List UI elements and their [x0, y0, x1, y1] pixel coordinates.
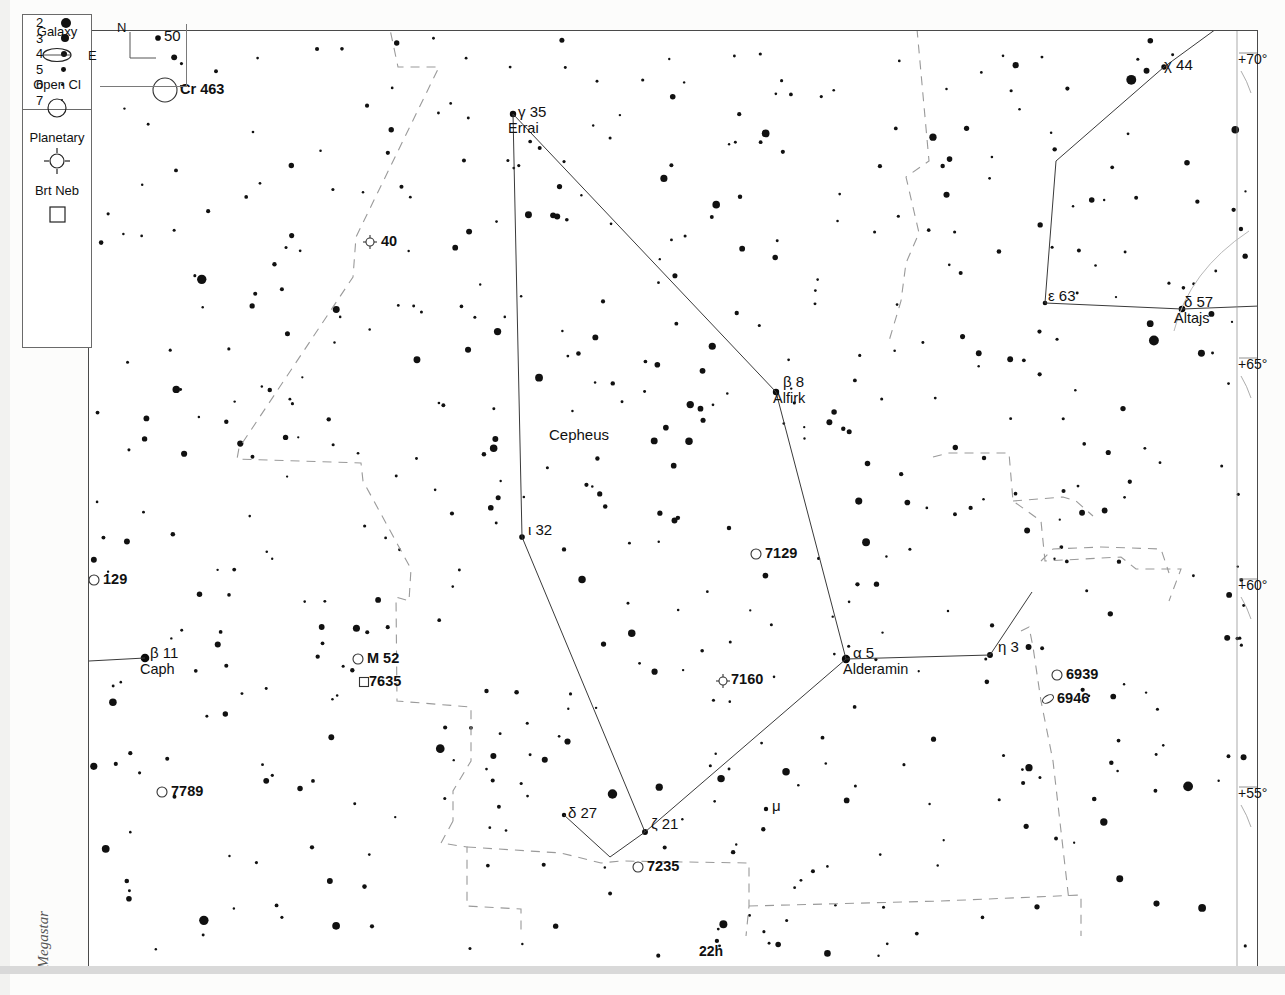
field-star — [773, 676, 776, 679]
field-star — [918, 670, 920, 672]
field-star — [1102, 508, 1108, 514]
field-star — [717, 775, 724, 782]
field-star — [286, 475, 288, 477]
field-star — [749, 609, 751, 611]
field-star — [1022, 358, 1026, 362]
field-star — [670, 238, 673, 241]
legend-symbol-label: Galaxy — [23, 24, 91, 39]
field-star — [1079, 510, 1085, 516]
field-star — [451, 585, 454, 588]
dso-open-cluster — [751, 549, 761, 559]
field-star — [738, 195, 742, 199]
field-star — [832, 89, 835, 92]
field-star — [709, 343, 716, 350]
field-star — [499, 732, 502, 735]
field-star — [953, 445, 958, 450]
field-star — [197, 275, 206, 284]
field-star — [261, 385, 263, 387]
field-star — [865, 461, 870, 466]
field-star — [171, 532, 176, 537]
field-star — [706, 590, 709, 593]
field-star — [224, 664, 228, 668]
field-star — [261, 763, 264, 766]
field-star — [488, 826, 491, 829]
field-star — [357, 452, 360, 455]
named-star-mu — [764, 807, 768, 811]
field-star — [772, 255, 778, 261]
field-star — [1244, 944, 1247, 947]
field-star — [526, 795, 529, 798]
field-star — [310, 845, 314, 849]
field-star — [492, 407, 495, 410]
dso-open-cluster — [353, 654, 363, 664]
field-star — [248, 515, 251, 518]
field-star — [1014, 492, 1018, 496]
field-star — [497, 805, 501, 809]
constellation-boundaries-layer — [237, 31, 1181, 936]
star-label-delta-27: δ 27 — [568, 805, 597, 820]
field-star — [228, 855, 230, 857]
field-star — [940, 164, 944, 168]
field-star — [486, 864, 490, 868]
field-star — [1220, 464, 1223, 467]
field-star — [386, 625, 390, 629]
dso-planetary — [363, 235, 377, 249]
field-star — [253, 292, 257, 296]
field-star — [959, 271, 963, 275]
field-star — [1108, 611, 1113, 616]
field-star — [462, 159, 466, 163]
field-star — [1244, 190, 1246, 192]
field-star — [562, 547, 566, 551]
field-star — [604, 866, 606, 868]
field-star — [542, 863, 546, 867]
star-chart-page: 50γ 35Erraiχ 44ε 63δ 57Altajsβ 8Alfirkι … — [0, 0, 1285, 995]
field-star — [1241, 754, 1247, 760]
constellation-boundary — [749, 895, 1081, 936]
field-star — [520, 782, 523, 785]
field-star — [297, 436, 299, 438]
field-star — [143, 416, 149, 422]
field-star — [929, 134, 936, 141]
field-star — [591, 485, 594, 488]
field-star — [1162, 744, 1165, 747]
field-star — [672, 273, 677, 278]
field-star — [1082, 442, 1086, 446]
field-star — [576, 351, 581, 356]
field-star — [397, 304, 400, 307]
field-star — [237, 440, 243, 446]
field-star — [205, 715, 208, 718]
field-star — [775, 942, 781, 948]
field-star — [565, 218, 569, 222]
field-star — [657, 281, 660, 284]
field-star — [770, 623, 773, 626]
field-star — [896, 303, 899, 306]
field-star — [1120, 406, 1125, 411]
field-star — [453, 759, 455, 761]
field-star — [1110, 694, 1116, 700]
star-label-beta-11: β 11 — [150, 645, 178, 660]
legend-symbol-galaxy: Galaxy — [23, 24, 91, 68]
field-star — [1034, 904, 1039, 909]
field-star — [265, 687, 268, 690]
field-star — [1051, 246, 1054, 249]
field-star — [1037, 329, 1041, 333]
field-star — [505, 829, 508, 832]
field-star — [336, 694, 339, 697]
field-star — [1239, 227, 1243, 231]
field-star — [259, 182, 262, 185]
field-star — [559, 38, 564, 43]
field-star — [943, 839, 945, 841]
field-star — [1055, 338, 1058, 341]
field-star — [91, 557, 97, 563]
field-star — [1100, 818, 1107, 825]
page-left-margin — [0, 0, 10, 995]
field-star — [638, 662, 641, 665]
field-star — [284, 246, 287, 249]
field-star — [128, 751, 132, 755]
field-star — [641, 78, 644, 81]
field-star — [316, 655, 320, 659]
field-star — [283, 435, 288, 440]
field-star — [199, 916, 208, 925]
field-star — [99, 240, 104, 245]
deep-sky-objects-layer — [89, 78, 1062, 872]
